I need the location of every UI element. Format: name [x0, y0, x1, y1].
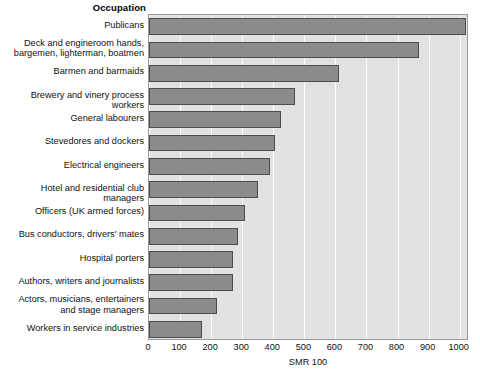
x-tick-label: 200: [202, 342, 217, 352]
category-label: Brewery and vinery process workers: [0, 90, 144, 111]
x-axis-ticks: 01002003004005006007008009001000: [148, 341, 468, 357]
x-tick-label: 300: [234, 342, 249, 352]
bar: [149, 111, 281, 128]
category-label: Stevedores and dockers: [0, 136, 144, 147]
category-label: Barmen and barmaids: [0, 66, 144, 77]
bar: [149, 88, 295, 105]
bar-row: [149, 65, 467, 82]
category-labels: PublicansDeck and engineroom hands, barg…: [0, 0, 144, 375]
bar-row: [149, 135, 467, 152]
bar-row: [149, 111, 467, 128]
bar-row: [149, 274, 467, 291]
category-label: Workers in service industries: [0, 323, 144, 334]
x-tick-label: 700: [358, 342, 373, 352]
bar: [149, 135, 275, 152]
category-label: Hospital porters: [0, 253, 144, 264]
bar: [149, 181, 258, 198]
bar-row: [149, 18, 467, 35]
bar: [149, 158, 270, 175]
bar-row: [149, 321, 467, 338]
x-tick-label: 0: [145, 342, 150, 352]
x-axis-title: SMR 100: [148, 357, 468, 367]
smr-bar-chart: Occupation PublicansDeck and engineroom …: [0, 0, 480, 375]
x-tick-label: 1000: [448, 342, 468, 352]
bar-row: [149, 251, 467, 268]
bar: [149, 18, 466, 35]
bar-row: [149, 205, 467, 222]
bars-layer: [149, 15, 467, 339]
bar-row: [149, 228, 467, 245]
bar: [149, 251, 233, 268]
category-label: Publicans: [0, 20, 144, 31]
category-label: Bus conductors, drivers' mates: [0, 229, 144, 240]
bar: [149, 298, 217, 315]
plot-area: [148, 14, 468, 340]
x-tick-label: 800: [389, 342, 404, 352]
bar: [149, 228, 238, 245]
category-label: Deck and engineroom hands, bargemen, lig…: [0, 38, 144, 59]
bar-row: [149, 298, 467, 315]
bar: [149, 205, 245, 222]
bar-row: [149, 42, 467, 59]
category-label: Electrical engineers: [0, 160, 144, 171]
category-label: Actors, musicians, entertainers and stag…: [0, 294, 144, 315]
bar: [149, 42, 419, 59]
category-label: Hotel and residential club managers: [0, 183, 144, 204]
x-tick-label: 600: [327, 342, 342, 352]
bar: [149, 274, 233, 291]
category-label: General labourers: [0, 113, 144, 124]
bar-row: [149, 88, 467, 105]
x-tick-label: 100: [171, 342, 186, 352]
bar: [149, 65, 339, 82]
category-label: Officers (UK armed forces): [0, 206, 144, 217]
bar-row: [149, 181, 467, 198]
x-tick-label: 900: [420, 342, 435, 352]
x-tick-label: 500: [296, 342, 311, 352]
bar-row: [149, 158, 467, 175]
x-tick-label: 400: [265, 342, 280, 352]
bar: [149, 321, 202, 338]
category-label: Authors, writers and journalists: [0, 276, 144, 287]
